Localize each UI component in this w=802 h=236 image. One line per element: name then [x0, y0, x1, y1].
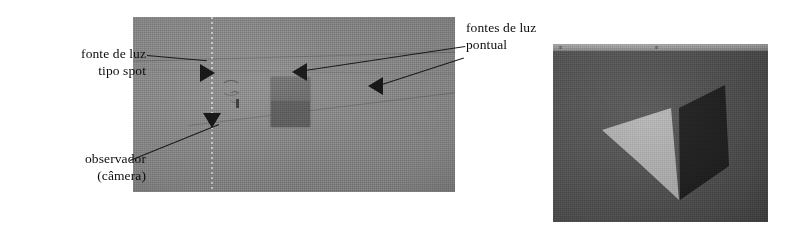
shadow-face-polygon [679, 85, 729, 200]
rendered-geometry [553, 44, 768, 222]
dotted-axis-line [211, 17, 213, 192]
figure-root: fonte de luz tipo spot observador (câmer… [0, 0, 802, 236]
callout-spot-light: fonte de luz tipo spot [36, 45, 146, 80]
rendered-result-panel [553, 44, 768, 222]
callout-observer-line2: (câmera) [36, 167, 146, 184]
callout-observer: observador (câmera) [36, 150, 146, 185]
marker-spot-light [200, 64, 215, 82]
callout-point-line2: pontual [466, 36, 536, 53]
scene-squiggle-small [229, 91, 241, 103]
lit-face-polygon [602, 108, 679, 200]
scene-object-block [271, 77, 310, 127]
callout-spot-line1: fonte de luz [81, 46, 146, 61]
callout-observer-line1: observador [85, 151, 146, 166]
marker-point-light-1 [292, 63, 307, 81]
callout-point-lights: fontes de luz pontual [466, 19, 536, 54]
scene-top-view-panel [133, 17, 455, 192]
callout-point-line1: fontes de luz [466, 20, 536, 35]
marker-point-light-2 [368, 77, 383, 95]
callout-spot-line2: tipo spot [36, 62, 146, 79]
